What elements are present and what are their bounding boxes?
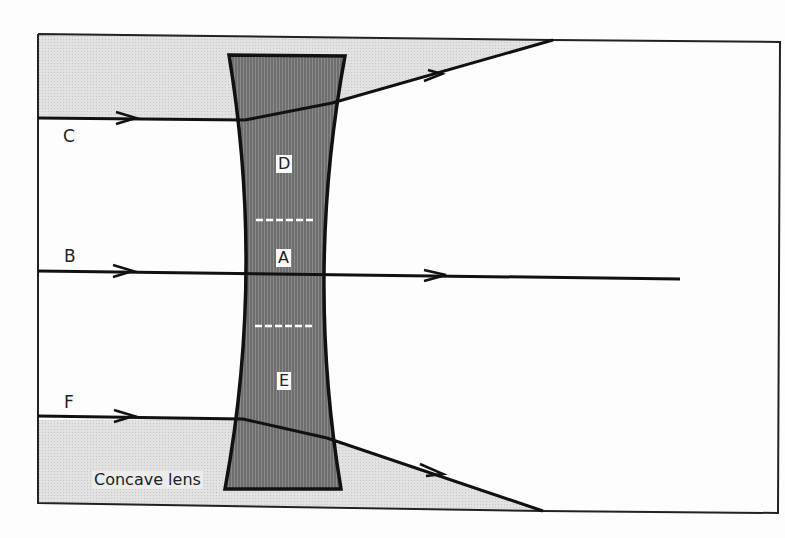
lens-caption: Concave lens — [92, 471, 203, 489]
ray-label-b: B — [64, 248, 76, 265]
region-label-d: D — [276, 155, 292, 173]
region-label-a: A — [276, 249, 291, 267]
ray-b — [38, 271, 680, 279]
ray-label-f: F — [64, 394, 74, 411]
ray-label-c: C — [63, 128, 75, 145]
concave-lens-diagram — [0, 0, 785, 538]
region-label-e: E — [277, 372, 291, 390]
